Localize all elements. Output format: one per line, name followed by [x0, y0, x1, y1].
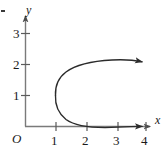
- parabola-lower-branch: [55, 96, 142, 128]
- x-axis-label: x: [155, 114, 160, 126]
- parabola-upper-branch: [55, 60, 142, 96]
- parabola-figure: 1 2 3 4 1 2 3 x y O: [0, 0, 165, 153]
- x-tick-label-1: 1: [51, 134, 58, 147]
- x-tick-label-3: 3: [113, 134, 120, 147]
- origin-label: O: [12, 132, 21, 145]
- x-tick-label-4: 4: [141, 134, 148, 147]
- y-axis-label: y: [26, 4, 31, 16]
- y-tick-label-2: 2: [13, 58, 20, 71]
- y-tick-label-1: 1: [13, 89, 20, 102]
- plot-canvas: [0, 0, 165, 153]
- x-tick-label-2: 2: [82, 134, 89, 147]
- y-tick-label-3: 3: [13, 27, 20, 40]
